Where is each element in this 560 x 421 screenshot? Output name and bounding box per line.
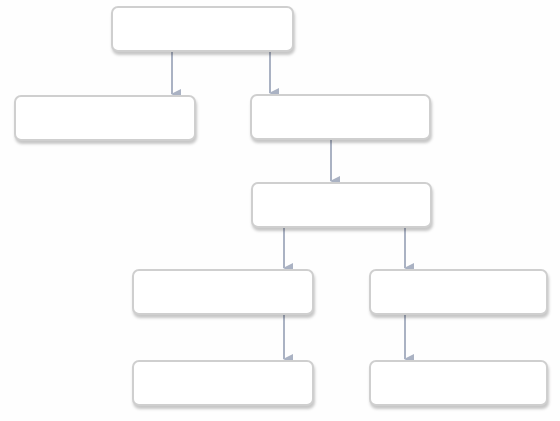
flowchart-node-level2-left bbox=[14, 95, 196, 141]
flowchart-node-level3 bbox=[251, 182, 432, 228]
flowchart-node-root bbox=[111, 6, 294, 52]
flowchart-canvas bbox=[0, 0, 560, 421]
flowchart-node-level5-right bbox=[369, 360, 548, 406]
flowchart-node-level5-left bbox=[132, 360, 314, 406]
flowchart-node-level4-right bbox=[369, 269, 548, 315]
flowchart-node-level2-right bbox=[250, 94, 431, 140]
flowchart-node-level4-left bbox=[132, 269, 314, 315]
